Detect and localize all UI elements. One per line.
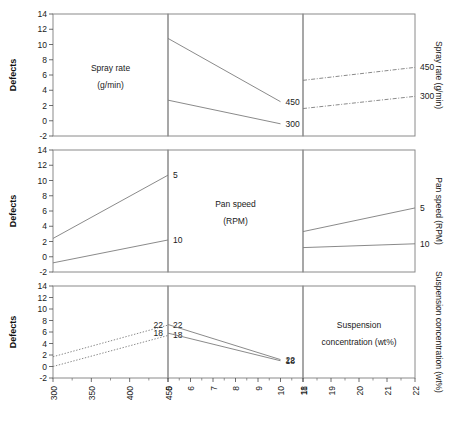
y-tick-label: 2 — [42, 101, 47, 111]
y-tick-label: -2 — [39, 267, 47, 277]
x-tick-label: 6 — [186, 386, 196, 391]
x-tick-label: 7 — [209, 386, 219, 391]
y-tick-label: 6 — [42, 327, 47, 337]
series-line — [168, 100, 281, 124]
panel-frame-r2c3 — [303, 150, 415, 272]
y-axis-title: Defects — [8, 316, 18, 349]
y-tick-label: 2 — [42, 237, 47, 247]
x-tick-label: 21 — [383, 386, 393, 396]
series-line — [53, 240, 168, 263]
row-factor-label: Pan speed (RPM) — [434, 177, 444, 245]
row-factor-label: Spray rate (g/min) — [434, 41, 444, 109]
series-line — [303, 96, 415, 108]
y-axis-title: Defects — [8, 59, 18, 92]
y-tick-label: -2 — [39, 131, 47, 141]
y-tick-label: 4 — [42, 85, 47, 95]
y-tick-label: 14 — [38, 9, 48, 19]
diagonal-label-line1: Pan speed — [215, 199, 256, 209]
x-tick-label: 8 — [231, 386, 241, 391]
series-label-right: 10 — [173, 235, 183, 245]
diagonal-label-line2: (g/min) — [97, 80, 124, 90]
y-tick-label: 8 — [42, 191, 47, 201]
y-tick-label: -2 — [39, 373, 47, 383]
y-tick-label: 14 — [38, 145, 48, 155]
panel-frame-r2c1 — [53, 150, 168, 272]
y-tick-label: 10 — [38, 40, 48, 50]
series-line — [303, 67, 415, 80]
panel-frame-r1c3 — [303, 14, 415, 136]
series-line — [168, 38, 281, 101]
y-tick-label: 0 — [42, 362, 47, 372]
series-label-right: 450 — [420, 62, 434, 72]
panel-frame-r2c2 — [168, 150, 303, 272]
y-tick-label: 10 — [38, 176, 48, 186]
y-tick-label: 6 — [42, 206, 47, 216]
x-tick-label: 18 — [299, 386, 309, 396]
panel-frame-r1c2 — [168, 14, 303, 136]
plot-canvas: 141414121212101010888666444222000-2-2-2D… — [0, 0, 457, 421]
panel-frame-r3c1 — [53, 286, 168, 378]
x-tick-label: 10 — [276, 386, 286, 396]
y-tick-label: 4 — [42, 339, 47, 349]
series-line — [168, 333, 281, 361]
y-tick-label: 0 — [42, 116, 47, 126]
series-line — [53, 325, 168, 357]
series-line — [53, 175, 168, 238]
series-line — [303, 244, 415, 248]
y-tick-label: 10 — [38, 304, 48, 314]
series-line — [303, 208, 415, 232]
series-line — [53, 335, 168, 366]
diagonal-label-line1: Suspension — [337, 320, 382, 330]
series-label-right: 300 — [286, 119, 300, 129]
x-tick-label: 19 — [327, 386, 337, 396]
y-tick-label: 12 — [38, 24, 48, 34]
panel-frame-r1c1 — [53, 14, 168, 136]
y-tick-label: 0 — [42, 252, 47, 262]
y-axis-title: Defects — [8, 195, 18, 228]
diagonal-label-line2: (RPM) — [223, 216, 248, 226]
series-label-right: 5 — [173, 170, 178, 180]
y-tick-label: 14 — [38, 281, 48, 291]
x-tick-label: 5 — [164, 386, 174, 391]
series-label-right: 5 — [420, 203, 425, 213]
x-tick-label: 9 — [254, 386, 264, 391]
interaction-plot-matrix: 141414121212101010888666444222000-2-2-2D… — [0, 0, 457, 421]
panel-frame-r3c3 — [303, 286, 415, 378]
panel-frame-r3c2 — [168, 286, 303, 378]
y-tick-label: 8 — [42, 316, 47, 326]
y-tick-label: 12 — [38, 293, 48, 303]
series-label-right: 10 — [420, 239, 430, 249]
series-label-right: 450 — [286, 97, 300, 107]
series-line — [168, 325, 281, 360]
y-tick-label: 4 — [42, 221, 47, 231]
x-tick-label: 350 — [87, 386, 97, 400]
x-tick-label: 300 — [49, 386, 59, 400]
diagonal-label-line2: concentration (wt%) — [321, 337, 396, 347]
y-tick-label: 2 — [42, 350, 47, 360]
diagonal-label-line1: Spray rate — [91, 63, 130, 73]
y-tick-label: 8 — [42, 55, 47, 65]
series-label-left: 18 — [154, 328, 164, 338]
series-label-right: 18 — [286, 356, 296, 366]
x-tick-label: 20 — [355, 386, 365, 396]
row-factor-label: Suspension concentration (wt%) — [434, 271, 444, 393]
x-tick-label: 400 — [125, 386, 135, 400]
x-tick-label: 22 — [411, 386, 421, 396]
y-tick-label: 6 — [42, 70, 47, 80]
y-tick-label: 12 — [38, 160, 48, 170]
series-label-right: 300 — [420, 91, 434, 101]
